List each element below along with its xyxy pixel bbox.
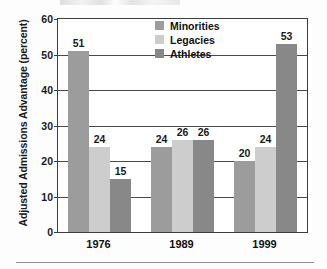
bar-value-label: 15 xyxy=(115,165,127,177)
bar-value-label: 24 xyxy=(260,133,272,145)
legend-item-legacies: Legacies xyxy=(155,33,220,46)
legend-label-athletes: Athletes xyxy=(170,48,211,60)
bar-minorities-1999: 20 xyxy=(234,161,255,232)
y-axis-tick-label: 60 xyxy=(41,13,53,25)
y-axis-tick-mark xyxy=(54,161,58,162)
y-axis-tick-label: 50 xyxy=(41,49,53,61)
bar-athletes-1989: 26 xyxy=(193,140,214,232)
x-axis-tick-label-1999: 1999 xyxy=(252,238,276,250)
y-axis-tick-mark xyxy=(54,232,58,233)
x-axis-tick-label-1976: 1976 xyxy=(86,238,110,250)
y-axis-tick-mark xyxy=(54,19,58,20)
y-axis-tick-label: 30 xyxy=(41,120,53,132)
bar-legacies-1989: 26 xyxy=(172,140,193,232)
y-axis-tick-mark xyxy=(54,197,58,198)
bar-value-label: 53 xyxy=(281,30,293,42)
bar-minorities-1976: 51 xyxy=(68,51,89,232)
legend-label-minorities: Minorities xyxy=(170,20,220,32)
bar-value-label: 24 xyxy=(156,133,168,145)
y-axis-tick-mark xyxy=(54,126,58,127)
bar-value-label: 26 xyxy=(177,126,189,138)
footer-divider xyxy=(16,262,314,263)
y-axis-tick-label: 20 xyxy=(41,155,53,167)
x-axis-tick-label-1989: 1989 xyxy=(169,238,193,250)
bar-value-label: 20 xyxy=(239,147,251,159)
legend-swatch-minorities-icon xyxy=(155,21,164,30)
bar-value-label: 24 xyxy=(94,133,106,145)
legend-item-athletes: Athletes xyxy=(155,47,220,60)
y-axis-tick-label: 10 xyxy=(41,191,53,203)
legend-label-legacies: Legacies xyxy=(170,34,215,46)
bar-chart-figure: Adjusted Admissions Advantage (percent) … xyxy=(0,0,327,269)
y-axis-tick-mark xyxy=(54,90,58,91)
chart-legend: Minorities Legacies Athletes xyxy=(155,19,220,61)
bar-minorities-1989: 24 xyxy=(151,147,172,232)
bar-legacies-1976: 24 xyxy=(89,147,110,232)
bar-legacies-1999: 24 xyxy=(255,147,276,232)
y-axis-tick-label: 40 xyxy=(41,84,53,96)
cropped-caption-sliver xyxy=(60,0,180,5)
y-axis-tick-label: 0 xyxy=(47,226,53,238)
legend-item-minorities: Minorities xyxy=(155,19,220,32)
legend-swatch-legacies-icon xyxy=(155,35,164,44)
bar-value-label: 26 xyxy=(198,126,210,138)
bar-athletes-1976: 15 xyxy=(110,179,131,232)
gridline xyxy=(58,90,307,91)
y-axis-title: Adjusted Admissions Advantage (percent) xyxy=(17,8,29,238)
legend-swatch-athletes-icon xyxy=(155,49,164,58)
bar-value-label: 51 xyxy=(73,37,85,49)
y-axis-tick-mark xyxy=(54,55,58,56)
bar-athletes-1999: 53 xyxy=(276,44,297,232)
